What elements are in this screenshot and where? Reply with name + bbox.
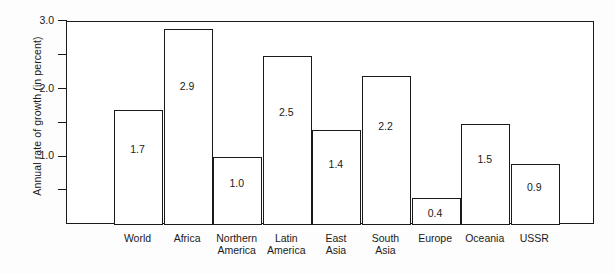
- bar: [312, 130, 361, 225]
- y-axis-title: Annual rate of growth (in percent): [31, 11, 43, 221]
- x-axis-category-label-line: USSR: [501, 232, 568, 244]
- y-axis-tick-label: 2.0: [24, 82, 54, 94]
- y-axis-tick-label: 1.0: [24, 149, 54, 161]
- bar: [511, 164, 560, 225]
- y-axis-tick-label: 3.0: [24, 14, 54, 26]
- bar: [114, 110, 163, 225]
- bar: [461, 124, 510, 226]
- plot-area: [66, 21, 594, 224]
- x-axis-category-label: USSR: [501, 232, 568, 244]
- bar: [213, 157, 262, 225]
- x-axis-category-label-line: Asia: [352, 244, 419, 256]
- bar-chart: Annual rate of growth (in percent) 1.02.…: [0, 0, 615, 274]
- bar: [164, 29, 213, 225]
- bar: [412, 198, 461, 225]
- bar: [263, 56, 312, 225]
- bar: [362, 76, 411, 225]
